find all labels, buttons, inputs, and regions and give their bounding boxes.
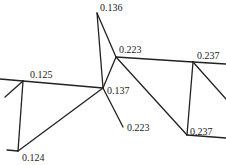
node-label-e: 0.223 [119, 44, 142, 55]
edge-line [7, 150, 18, 151]
line-diagram: 0.1250.1240.1360.1370.2230.2230.2370.237 [0, 0, 226, 165]
edge-line [187, 62, 193, 135]
edge-line [116, 57, 193, 62]
node-label-a: 0.125 [30, 69, 53, 80]
edge-line [0, 79, 23, 81]
edge-line [18, 88, 103, 151]
node-label-g: 0.237 [197, 50, 220, 61]
edge-line [103, 57, 116, 88]
edge-line [193, 62, 226, 99]
edge-line [5, 81, 23, 97]
node-label-h: 0.237 [190, 126, 213, 137]
edge-line [18, 81, 23, 151]
node-label-f: 0.223 [127, 122, 150, 133]
label-group: 0.1250.1240.1360.1370.2230.2230.2370.237 [22, 2, 220, 163]
diagram-canvas: 0.1250.1240.1360.1370.2230.2230.2370.237 [0, 0, 226, 165]
edge-line [193, 62, 226, 64]
node-label-b: 0.124 [22, 152, 45, 163]
node-label-d: 0.137 [107, 85, 130, 96]
edge-line [23, 81, 103, 88]
node-label-c: 0.136 [100, 2, 123, 13]
